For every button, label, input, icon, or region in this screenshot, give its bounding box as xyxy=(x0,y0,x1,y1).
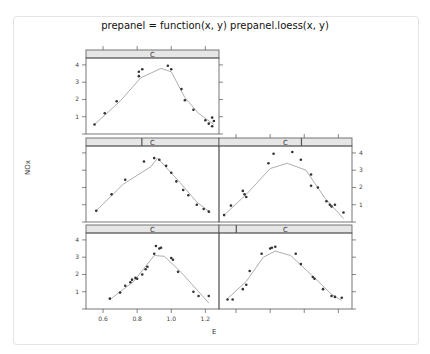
tick-label: 3 xyxy=(75,253,79,260)
data-point xyxy=(334,296,337,299)
data-point xyxy=(144,268,147,271)
data-point xyxy=(248,270,251,273)
strip-label: C xyxy=(150,226,155,234)
data-point xyxy=(187,194,190,197)
loess-line xyxy=(110,256,209,304)
strip-label: C xyxy=(283,226,288,234)
data-point xyxy=(138,71,141,74)
data-point xyxy=(310,173,313,176)
data-point xyxy=(170,171,173,174)
data-point xyxy=(110,193,113,196)
data-point xyxy=(192,109,195,112)
data-point xyxy=(245,196,248,199)
tick-label: 2 xyxy=(359,183,363,190)
data-point xyxy=(231,298,234,301)
x-axis-label: E xyxy=(212,328,216,336)
data-point xyxy=(242,190,245,193)
panel-box xyxy=(219,233,352,309)
y-axis-label: NOx xyxy=(24,160,32,175)
tick-label: 3 xyxy=(359,166,363,173)
data-point xyxy=(124,178,127,181)
panel-box xyxy=(219,146,352,222)
data-point xyxy=(260,252,263,255)
data-point xyxy=(207,122,210,125)
data-point xyxy=(291,151,294,154)
data-point xyxy=(207,295,210,298)
data-point xyxy=(310,184,313,187)
data-point xyxy=(271,246,274,249)
tick-label: 2 xyxy=(75,270,79,277)
strip-label: C xyxy=(283,139,288,147)
data-point xyxy=(153,157,156,160)
data-point xyxy=(202,208,205,211)
data-point xyxy=(226,298,229,301)
data-point xyxy=(267,162,270,165)
data-point xyxy=(184,99,187,102)
data-point xyxy=(317,186,320,189)
data-point xyxy=(153,252,156,255)
data-point xyxy=(180,88,183,91)
tick-label: 3 xyxy=(75,78,79,85)
data-point xyxy=(172,258,175,261)
data-point xyxy=(330,205,333,208)
data-point xyxy=(211,116,214,119)
data-point xyxy=(124,284,127,287)
tick-label: 4 xyxy=(75,236,79,243)
data-point xyxy=(192,290,195,293)
data-point xyxy=(177,271,180,274)
data-point xyxy=(211,125,214,128)
data-point xyxy=(141,68,144,71)
data-point xyxy=(129,281,132,284)
panel-box xyxy=(86,146,219,222)
data-point xyxy=(334,203,337,206)
tick-label: 1 xyxy=(75,288,79,295)
data-point xyxy=(119,291,122,294)
tick-label: 0.6 xyxy=(98,315,108,322)
tick-label: 1.0 xyxy=(166,315,176,322)
panel-box xyxy=(86,58,219,134)
data-point xyxy=(109,297,112,300)
data-point xyxy=(272,152,275,155)
strip-label: C xyxy=(150,139,155,147)
data-point xyxy=(146,265,149,268)
data-point xyxy=(143,160,146,163)
data-point xyxy=(95,209,98,212)
data-point xyxy=(167,64,170,67)
data-point xyxy=(196,203,199,206)
data-point xyxy=(243,193,246,196)
tick-label: 0.8 xyxy=(132,315,142,322)
data-point xyxy=(158,159,161,162)
data-point xyxy=(93,123,96,126)
data-point xyxy=(313,277,316,280)
data-point xyxy=(131,278,134,281)
strip-label: C xyxy=(150,51,155,59)
data-point xyxy=(103,112,106,115)
trellis-plot: CCCCC0.60.81.01.2123412341234 xyxy=(0,0,430,354)
data-point xyxy=(300,263,303,266)
tick-label: 4 xyxy=(75,61,79,68)
data-point xyxy=(115,100,118,103)
data-point xyxy=(170,68,173,71)
data-point xyxy=(322,288,325,291)
data-point xyxy=(182,189,185,192)
data-point xyxy=(160,246,163,249)
data-point xyxy=(204,119,207,122)
data-point xyxy=(175,180,178,183)
data-point xyxy=(330,295,333,298)
data-point xyxy=(342,211,345,214)
panel-box xyxy=(86,233,219,309)
data-point xyxy=(340,296,343,299)
tick-label: 1 xyxy=(359,201,363,208)
data-point xyxy=(138,75,141,78)
data-point xyxy=(197,295,200,298)
loess-line xyxy=(95,68,214,124)
data-point xyxy=(230,204,233,207)
data-point xyxy=(294,252,297,255)
data-point xyxy=(245,284,248,287)
data-point xyxy=(274,246,277,249)
tick-label: 1 xyxy=(75,113,79,120)
data-point xyxy=(207,210,210,213)
loess-line xyxy=(96,158,210,212)
data-point xyxy=(242,288,245,291)
data-point xyxy=(155,245,158,248)
